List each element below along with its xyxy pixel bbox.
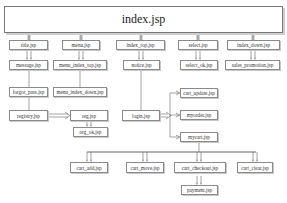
node-index-down: index_down.jsp xyxy=(227,40,280,50)
node-cart-move: cart_move.jsp xyxy=(126,162,164,173)
node-cart-checkout: cart_checkout.jsp xyxy=(174,162,226,173)
node-index: index.jsp xyxy=(4,6,283,33)
node-index-top: index_top.jsp xyxy=(116,40,165,50)
node-reg: reg.jsp xyxy=(70,110,108,121)
node-select-ok: select_ok.jsp xyxy=(180,60,218,70)
node-forgot-pass: forgot_pass.jsp xyxy=(9,87,48,97)
diagram-canvas: index.jsp title.jsp menu.jsp index_top.j… xyxy=(0,0,287,203)
node-message: message.jsp xyxy=(9,60,48,70)
node-cart-clear: cart_clear.jsp xyxy=(237,162,273,173)
node-myorder: myorder.jsp xyxy=(180,110,218,120)
node-login: login.jsp xyxy=(122,110,160,121)
node-cart-add: cart_add.jsp xyxy=(70,162,108,173)
node-menu-index-top: menu_index_top.jsp xyxy=(53,60,107,70)
node-sales-promotion: sales_promotion.jsp xyxy=(225,60,280,70)
node-cart-update: cart_update.jsp xyxy=(180,88,218,98)
node-payment: payment.jsp xyxy=(181,185,218,195)
node-menu-index-down: menu_index_down.jsp xyxy=(53,87,107,97)
node-title: title.jsp xyxy=(9,40,48,50)
node-menu: menu.jsp xyxy=(62,40,100,50)
node-notice: notice.jsp xyxy=(123,60,160,70)
node-registry: registry.jsp xyxy=(9,110,48,121)
node-select: select.jsp xyxy=(178,40,218,50)
node-mycart: mycart.jsp xyxy=(180,132,218,142)
node-reg-ok: reg_ok.jsp xyxy=(73,127,108,137)
